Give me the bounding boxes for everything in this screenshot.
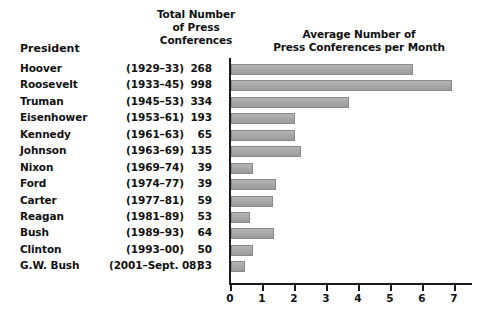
- bar: [231, 196, 273, 207]
- president-name: Kennedy: [20, 128, 71, 140]
- x-axis-line: [229, 283, 472, 285]
- bar: [231, 245, 253, 256]
- y-axis-line: [229, 58, 231, 285]
- table-row: Hoover(1929–33)268: [0, 62, 228, 78]
- x-axis-tick-label: 7: [442, 292, 466, 304]
- x-axis-tick: [294, 285, 296, 291]
- bar-row: [231, 161, 475, 177]
- press-conference-count: 135: [176, 144, 212, 156]
- table-row: Reagan(1981–89)53: [0, 210, 228, 226]
- president-name: G.W. Bush: [20, 259, 79, 271]
- bar: [231, 261, 245, 272]
- bar: [231, 80, 452, 91]
- press-conference-count: 59: [176, 194, 212, 206]
- bar-row: [231, 226, 475, 242]
- bar: [231, 113, 295, 124]
- bar-row: [231, 210, 475, 226]
- x-axis-tick: [326, 285, 328, 291]
- x-axis-tick: [390, 285, 392, 291]
- president-name: Roosevelt: [20, 78, 78, 90]
- bar: [231, 130, 295, 141]
- press-conference-count: 65: [176, 128, 212, 140]
- chart-title-line-1: Average Number of: [243, 28, 475, 41]
- total-press-conferences-header: Total Number of Press Conferences: [143, 8, 249, 47]
- x-axis-tick-label: 2: [282, 292, 306, 304]
- president-name: Carter: [20, 194, 57, 206]
- bar: [231, 64, 413, 75]
- press-conferences-figure: Total Number of Press Conferences Averag…: [0, 0, 485, 312]
- table-row: Carter(1977–81)59: [0, 194, 228, 210]
- president-name: Ford: [20, 177, 46, 189]
- x-axis-tick-label: 3: [314, 292, 338, 304]
- president-name: Truman: [20, 95, 64, 107]
- press-conference-count: 39: [176, 177, 212, 189]
- bar: [231, 163, 253, 174]
- bar-row: [231, 144, 475, 160]
- total-header-line-2: of Press: [143, 21, 249, 34]
- press-conference-count: 268: [176, 62, 212, 74]
- press-conference-count: 998: [176, 78, 212, 90]
- table-row: G.W. Bush(2001–Sept. 08)33: [0, 259, 228, 275]
- president-name: Clinton: [20, 243, 61, 255]
- bar-row: [231, 259, 475, 275]
- president-name: Johnson: [20, 144, 66, 156]
- chart-title-line-2: Press Conferences per Month: [243, 41, 475, 54]
- bar: [231, 179, 276, 190]
- table-row: Ford(1974–77)39: [0, 177, 228, 193]
- bar-row: [231, 128, 475, 144]
- x-axis-tick: [454, 285, 456, 291]
- bar-row: [231, 177, 475, 193]
- press-conference-count: 193: [176, 111, 212, 123]
- x-axis-tick: [422, 285, 424, 291]
- bar: [231, 228, 274, 239]
- bar-series: [231, 62, 475, 276]
- bar-row: [231, 194, 475, 210]
- total-header-line-1: Total Number: [143, 8, 249, 21]
- table-row: Nixon(1969–74)39: [0, 161, 228, 177]
- bar: [231, 97, 349, 108]
- president-column-header: President: [20, 42, 80, 55]
- total-header-line-3: Conferences: [143, 34, 249, 47]
- table-row: Clinton(1993–00)50: [0, 243, 228, 259]
- press-conference-count: 64: [176, 226, 212, 238]
- president-table: Hoover(1929–33)268Roosevelt(1933–45)998T…: [0, 62, 228, 276]
- bar-row: [231, 243, 475, 259]
- table-row: Truman(1945–53)334: [0, 95, 228, 111]
- x-axis-tick: [358, 285, 360, 291]
- x-axis-tick-label: 5: [378, 292, 402, 304]
- bar-row: [231, 62, 475, 78]
- bar-row: [231, 95, 475, 111]
- x-axis-tick: [262, 285, 264, 291]
- president-name: Nixon: [20, 161, 53, 173]
- table-row: Eisenhower(1953–61)193: [0, 111, 228, 127]
- president-name: Hoover: [20, 62, 62, 74]
- press-conference-count: 53: [176, 210, 212, 222]
- table-row: Roosevelt(1933–45)998: [0, 78, 228, 94]
- table-row: Kennedy(1961–63)65: [0, 128, 228, 144]
- press-conference-count: 39: [176, 161, 212, 173]
- chart-title: Average Number of Press Conferences per …: [243, 28, 475, 54]
- president-name: Bush: [20, 226, 49, 238]
- table-row: Bush(1989–93)64: [0, 226, 228, 242]
- x-axis-tick-label: 4: [346, 292, 370, 304]
- x-axis-tick-label: 6: [410, 292, 434, 304]
- x-axis-tick-label: 1: [250, 292, 274, 304]
- bar-row: [231, 111, 475, 127]
- bar: [231, 212, 250, 223]
- table-row: Johnson(1963–69)135: [0, 144, 228, 160]
- press-conference-count: 334: [176, 95, 212, 107]
- bar: [231, 146, 301, 157]
- president-name: Eisenhower: [20, 111, 87, 123]
- president-name: Reagan: [20, 210, 64, 222]
- x-axis-tick: [230, 285, 232, 291]
- press-conference-count: 50: [176, 243, 212, 255]
- bar-row: [231, 78, 475, 94]
- x-axis-tick-label: 0: [218, 292, 242, 304]
- press-conference-count: 33: [176, 259, 212, 271]
